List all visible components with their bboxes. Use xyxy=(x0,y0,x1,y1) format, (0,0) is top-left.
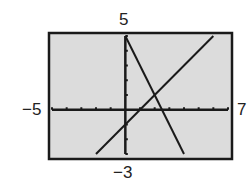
graph-screen xyxy=(0,0,252,186)
screen-frame xyxy=(49,33,232,159)
